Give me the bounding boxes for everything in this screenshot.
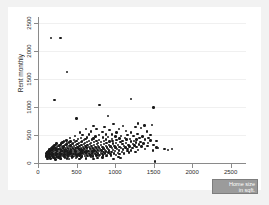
legend-label-line-2: in sqft. <box>213 187 255 193</box>
y-tick-4 <box>34 51 38 52</box>
data-point <box>125 130 127 132</box>
data-point <box>143 124 145 126</box>
data-point <box>149 139 151 141</box>
x-tick-label-0: 0 <box>36 169 39 175</box>
data-point <box>88 133 90 135</box>
x-tick-0 <box>38 164 39 168</box>
data-point <box>66 71 68 73</box>
data-point <box>144 138 146 140</box>
data-point <box>123 152 125 154</box>
data-point <box>108 140 110 142</box>
data-point <box>163 148 165 150</box>
legend-box[interactable]: Home size in sqft. <box>212 179 258 194</box>
data-point <box>78 158 80 160</box>
x-axis-line <box>38 163 246 164</box>
data-point <box>152 106 154 108</box>
data-point <box>151 124 153 126</box>
data-point <box>49 157 51 159</box>
data-point <box>130 131 132 133</box>
data-point <box>167 149 169 151</box>
gridline-y-3 <box>38 79 246 80</box>
y-tick-5 <box>34 23 38 24</box>
data-point <box>110 154 112 156</box>
data-point <box>101 156 103 158</box>
data-point <box>134 126 136 128</box>
data-point <box>115 139 117 141</box>
data-point <box>80 137 82 139</box>
data-point <box>128 151 130 153</box>
x-tick-4 <box>192 164 193 168</box>
data-point <box>95 128 97 130</box>
data-point <box>140 127 142 129</box>
y-tick-label-5: 2500 <box>26 16 32 29</box>
data-point <box>92 125 94 127</box>
data-point <box>119 157 121 159</box>
data-point <box>75 157 77 159</box>
data-point <box>107 115 109 117</box>
data-point <box>85 157 87 159</box>
data-point <box>53 99 55 101</box>
data-point <box>115 131 117 133</box>
data-point <box>147 142 149 144</box>
data-point <box>134 151 136 153</box>
data-point <box>130 98 132 100</box>
x-tick-label-4: 2000 <box>185 169 198 175</box>
data-point <box>112 123 114 125</box>
data-point <box>122 125 124 127</box>
y-tick-1 <box>34 135 38 136</box>
x-tick-3 <box>154 164 155 168</box>
data-point <box>50 37 52 39</box>
y-tick-label-0: 0 <box>26 161 32 164</box>
data-point <box>125 138 127 140</box>
data-point <box>100 141 102 143</box>
data-point <box>137 149 139 151</box>
data-point <box>96 157 98 159</box>
data-point <box>54 158 56 160</box>
data-point <box>140 145 142 147</box>
gridline-y-5 <box>38 23 246 24</box>
data-point <box>130 149 132 151</box>
x-tick-2 <box>115 164 116 168</box>
data-point <box>92 158 94 160</box>
data-point <box>152 149 154 151</box>
x-tick-label-2: 1000 <box>108 169 121 175</box>
data-point <box>146 145 148 147</box>
data-point <box>85 128 87 130</box>
data-point <box>108 129 110 131</box>
data-point <box>102 136 104 138</box>
gridline-y-4 <box>38 51 246 52</box>
data-point <box>132 135 134 137</box>
data-point <box>135 138 137 140</box>
y-tick-2 <box>34 107 38 108</box>
x-tick-5 <box>231 164 232 168</box>
data-point <box>81 134 83 136</box>
data-point <box>136 133 138 135</box>
data-point <box>137 122 139 124</box>
y-tick-3 <box>34 79 38 80</box>
data-point <box>90 130 92 132</box>
data-point <box>114 135 116 137</box>
data-point <box>155 140 157 142</box>
data-point <box>138 137 140 139</box>
y-tick-label-1: 500 <box>26 130 32 140</box>
data-point <box>103 126 105 128</box>
y-axis-title: Rent monthly <box>17 54 24 92</box>
y-tick-label-2: 1000 <box>26 100 32 113</box>
y-tick-label-4: 2000 <box>26 44 32 57</box>
data-point <box>149 134 151 136</box>
data-point <box>60 158 62 160</box>
data-point <box>101 131 103 133</box>
data-point <box>46 158 48 160</box>
data-point <box>141 135 143 137</box>
data-point <box>105 155 107 157</box>
data-point <box>157 147 159 149</box>
x-tick-label-3: 1500 <box>147 169 160 175</box>
data-point <box>68 158 70 160</box>
y-tick-label-3: 1500 <box>26 72 32 85</box>
data-point <box>74 135 76 137</box>
y-axis-line <box>38 17 39 164</box>
chart-screenshot: 05001000150020002500 0500100015002000250… <box>0 0 269 205</box>
data-point <box>126 134 128 136</box>
data-point <box>111 133 113 135</box>
x-tick-label-1: 500 <box>72 169 82 175</box>
